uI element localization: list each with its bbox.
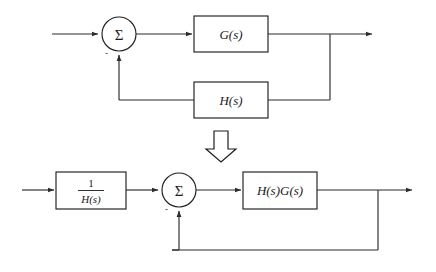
feedback-block-h-label: H(s) xyxy=(218,93,242,108)
equivalence-arrow-shape xyxy=(206,131,236,162)
forward-block-hg-label: H(s)G(s) xyxy=(256,183,303,198)
forward-block-g-label: G(s) xyxy=(219,27,242,42)
bottom-summing-junction-symbol: Σ xyxy=(175,183,184,199)
top-summing-junction-symbol: Σ xyxy=(115,27,124,43)
top-summing-junction-minus-sign: - xyxy=(105,48,108,58)
equivalence-arrow xyxy=(206,131,236,162)
block-diagram-figure: Σ - G(s) H(s) xyxy=(0,0,436,272)
bottom-diagram: 1 H(s) Σ - H(s)G(s) xyxy=(22,172,412,250)
prefilter-denominator: H(s) xyxy=(80,193,101,206)
bottom-summing-junction-minus-sign: - xyxy=(165,204,168,214)
diagram-canvas: Σ - G(s) H(s) xyxy=(0,0,436,272)
prefilter-numerator: 1 xyxy=(88,177,94,189)
top-diagram: Σ - G(s) H(s) xyxy=(52,16,372,118)
